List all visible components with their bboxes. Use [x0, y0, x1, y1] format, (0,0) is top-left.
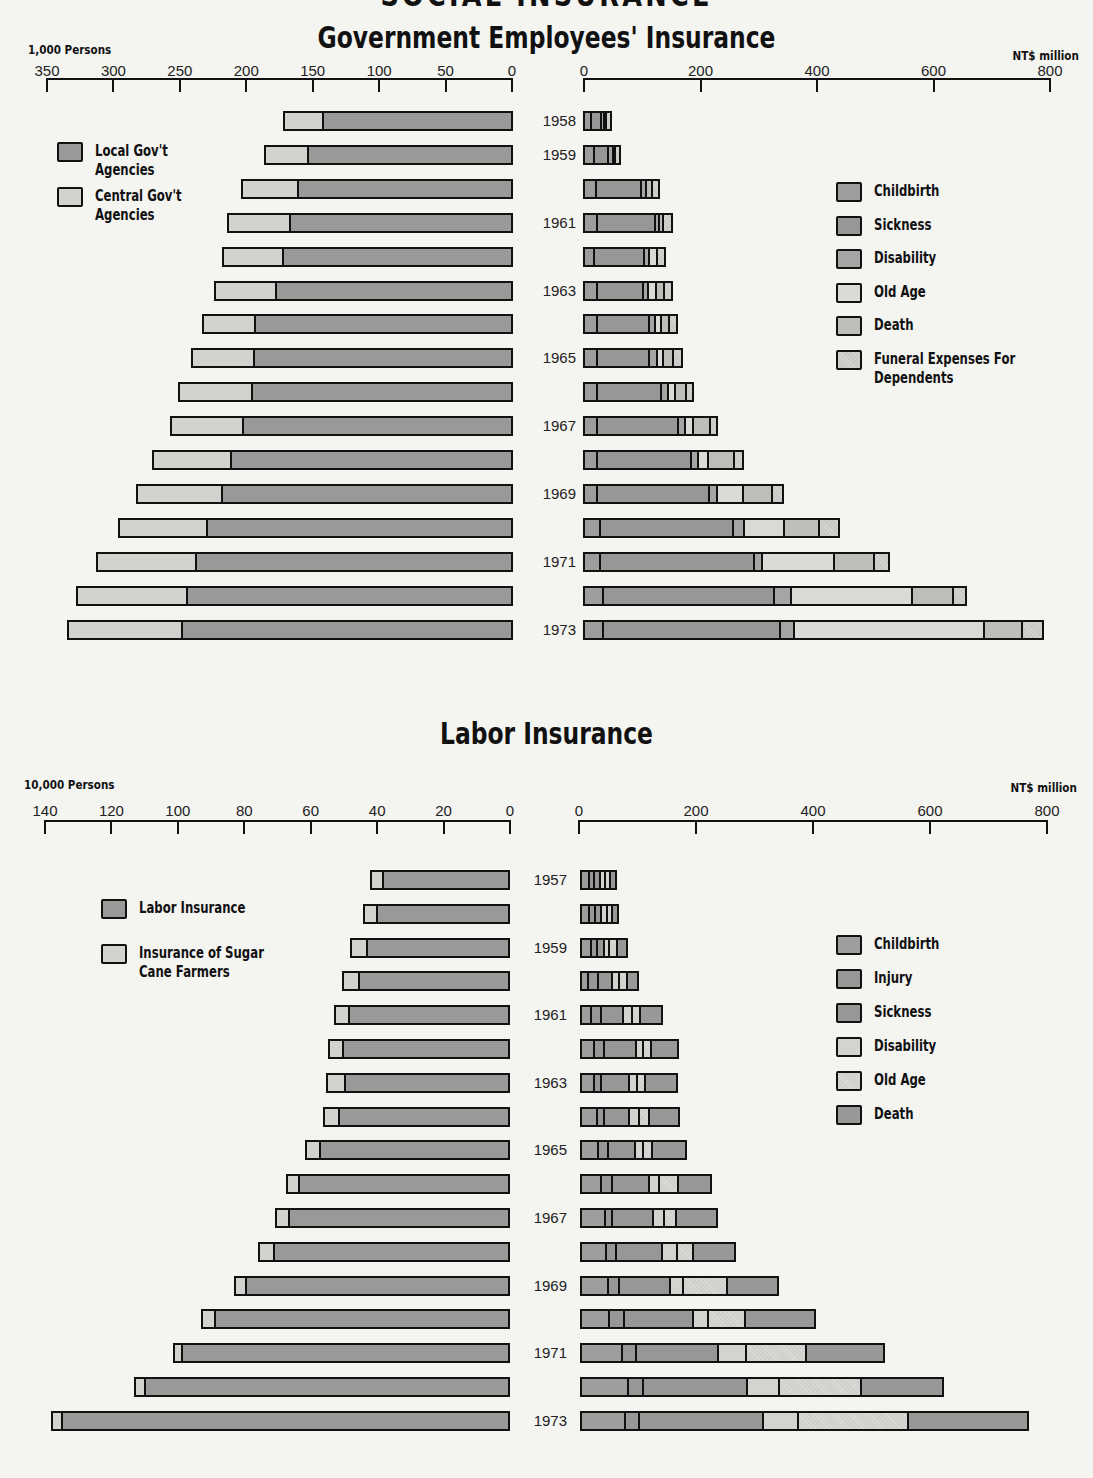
gov-persons-seg-central-gov-t-agencies	[172, 418, 244, 434]
labor-payments-seg-sickness	[603, 1109, 628, 1125]
gov-payments-seg-old-age	[790, 588, 912, 604]
labor-persons-seg-labor-insurance	[275, 1244, 508, 1260]
gov-payments-swatch-icon	[836, 350, 862, 370]
labor-persons-seg-labor-insurance	[360, 973, 508, 989]
labor-persons-bar-1969	[234, 1276, 510, 1296]
gov-payments-seg-funeral-expenses-for-dependents	[672, 350, 680, 366]
labor-payments-seg-disability	[762, 1413, 797, 1429]
labor-payments-seg-injury	[587, 973, 597, 989]
labor-persons-legend-label: Insurance of SugarCane Farmers	[139, 944, 264, 982]
labor-persons-seg-insurance-of-sugar-cane-farmers	[372, 872, 384, 888]
gov-payments-seg-death	[911, 588, 951, 604]
gov-right-tick-label: 0	[580, 62, 588, 79]
labor-payments-seg-sickness	[638, 1413, 762, 1429]
gov-payments-bar-1972	[583, 586, 967, 606]
labor-payments-bar-1972	[580, 1377, 944, 1397]
gov-right-tick	[700, 78, 702, 92]
gov-persons-legend-label: Local Gov'tAgencies	[95, 142, 168, 180]
gov-payments-bar-1971	[583, 552, 890, 572]
gov-persons-seg-central-gov-t-agencies	[154, 452, 232, 468]
labor-payments-bar-1964	[580, 1107, 680, 1127]
gov-persons-seg-local-gov-t-agencies	[324, 113, 511, 129]
labor-persons-seg-labor-insurance	[247, 1278, 508, 1294]
labor-payments-bar-1968	[580, 1242, 736, 1262]
gov-payments-seg-funeral-expenses-for-dependents	[685, 384, 692, 400]
labor-payments-seg-childbirth	[582, 1210, 604, 1226]
labor-payments-swatch-icon	[836, 1037, 862, 1057]
labor-persons-bar-1964	[323, 1107, 510, 1127]
labor-right-tick-label: 0	[575, 802, 583, 819]
labor-payments-legend-label: Death	[874, 1105, 913, 1124]
gov-right-tick	[1049, 78, 1051, 92]
labor-persons-seg-insurance-of-sugar-cane-farmers	[352, 940, 368, 956]
gov-payments-seg-death	[833, 554, 873, 570]
gov-persons-seg-local-gov-t-agencies	[309, 147, 511, 163]
labor-payments-seg-injury	[597, 1142, 607, 1158]
labor-payments-seg-sickness	[618, 1278, 670, 1294]
labor-payments-seg-death	[639, 1007, 660, 1023]
labor-persons-bar-1970	[201, 1309, 510, 1329]
gov-persons-bar-1966	[178, 382, 513, 402]
labor-payments-bar-1965	[580, 1140, 687, 1160]
labor-left-tick	[177, 820, 179, 834]
labor-payments-swatch-icon	[836, 1003, 862, 1023]
gov-persons-bar-1965	[191, 348, 513, 368]
gov-payments-bar-1962	[583, 247, 666, 267]
labor-persons-seg-insurance-of-sugar-cane-farmers	[203, 1311, 216, 1327]
gov-persons-seg-local-gov-t-agencies	[255, 350, 511, 366]
gov-payments-seg-old-age	[743, 520, 783, 536]
labor-left-tick	[443, 820, 445, 834]
gov-payments-bar-1968	[583, 450, 744, 470]
gov-left-tick	[46, 78, 48, 92]
gov-right-unit: NT$ million	[1013, 48, 1079, 63]
labor-left-tick	[110, 820, 112, 834]
gov-payments-seg-childbirth	[585, 588, 602, 604]
labor-payments-seg-injury	[600, 1176, 611, 1192]
labor-payments-bar-1969	[580, 1276, 779, 1296]
labor-payments-bar-1971	[580, 1343, 885, 1363]
labor-persons-bar-1972	[134, 1377, 510, 1397]
gov-persons-seg-central-gov-t-agencies	[69, 622, 182, 638]
labor-persons-bar-1965	[305, 1140, 510, 1160]
gov-payments-seg-sickness	[596, 350, 648, 366]
gov-persons-seg-local-gov-t-agencies	[284, 249, 511, 265]
labor-payments-seg-death	[675, 1210, 717, 1226]
labor-persons-seg-labor-insurance	[378, 906, 508, 922]
labor-payments-seg-disability	[635, 1041, 642, 1057]
gov-persons-bar-1963	[214, 281, 513, 301]
gov-year-label: 1965	[526, 349, 576, 366]
gov-persons-seg-central-gov-t-agencies	[216, 283, 278, 299]
gov-persons-swatch-icon	[57, 142, 83, 162]
gov-payments-seg-old-age	[793, 622, 984, 638]
gov-persons-bar-1962	[222, 247, 513, 267]
labor-left-axis-line	[44, 820, 511, 822]
labor-persons-seg-labor-insurance	[183, 1345, 508, 1361]
labor-left-tick-label: 20	[435, 802, 452, 819]
gov-persons-seg-local-gov-t-agencies	[232, 452, 511, 468]
gov-payments-seg-childbirth	[585, 520, 599, 536]
labor-left-tick-label: 120	[99, 802, 124, 819]
labor-payments-seg-sickness	[600, 1007, 622, 1023]
gov-payments-seg-sickness	[593, 249, 643, 265]
labor-payments-seg-childbirth	[582, 1041, 593, 1057]
gov-payments-seg-old-age	[648, 249, 656, 265]
gov-persons-seg-local-gov-t-agencies	[208, 520, 511, 536]
gov-payments-seg-childbirth	[585, 147, 593, 163]
labor-payments-seg-death	[651, 1142, 685, 1158]
labor-payments-seg-old-age	[608, 940, 616, 956]
labor-payments-seg-injury	[621, 1345, 635, 1361]
gov-payments-seg-old-age	[684, 418, 692, 434]
labor-payments-seg-childbirth	[582, 1007, 590, 1023]
gov-payments-seg-old-age	[647, 283, 655, 299]
gov-payments-seg-funeral-expenses-for-dependents	[709, 418, 716, 434]
labor-payments-seg-old-age	[676, 1244, 693, 1260]
gov-persons-bar-1972	[76, 586, 513, 606]
gov-persons-bar-1967	[170, 416, 513, 436]
labor-payments-legend-item: Sickness	[836, 1003, 948, 1023]
labor-payments-bar-1962	[580, 1039, 679, 1059]
gov-persons-bar-1961	[227, 213, 513, 233]
gov-persons-seg-central-gov-t-agencies	[266, 147, 309, 163]
gov-persons-bar-1960	[241, 179, 513, 199]
labor-persons-bar-1962	[328, 1039, 510, 1059]
gov-payments-seg-childbirth	[585, 418, 596, 434]
